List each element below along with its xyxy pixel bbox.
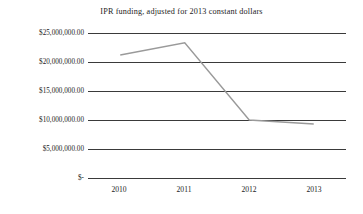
x-tick-label-2011: 2011 [159, 185, 209, 194]
x-tick-label-2013: 2013 [289, 185, 339, 194]
x-axis-tick-labels: 2010 2011 2012 2013 [0, 0, 363, 214]
chart-container: IPR funding, adjusted for 2013 constant … [0, 0, 363, 214]
x-tick-label-2012: 2012 [224, 185, 274, 194]
x-tick-label-2010: 2010 [94, 185, 144, 194]
